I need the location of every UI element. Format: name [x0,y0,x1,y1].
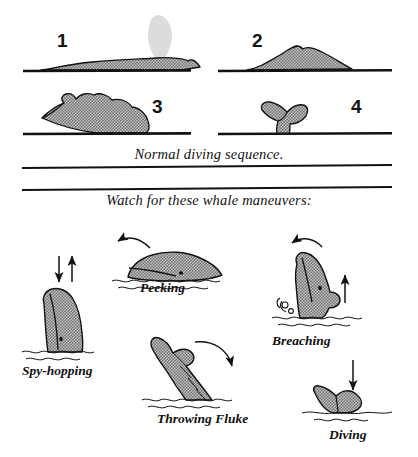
waterline-stage3 [23,133,191,134]
waterline-stage4 [218,133,392,134]
stage-number-2: 2 [252,31,263,50]
whale-head-spy-hopping [43,288,82,352]
breaching-figure [272,239,362,326]
label-peeking: Peeking [140,280,185,296]
stage-3-figure [23,94,191,134]
stage-number-3: 3 [152,97,163,116]
stage-1-figure [23,15,200,71]
whale-eye-breaching [318,286,322,290]
whale-eye-peeking [179,271,183,275]
stage-4-figure [218,102,392,134]
whale-head-peeking [128,252,222,281]
splash-breaching [277,298,293,313]
whale-fluke-stage4 [261,102,307,134]
stage-2-figure [218,46,392,71]
label-throwing-fluke: Throwing Fluke [157,411,248,427]
waterline-stage1 [23,70,191,71]
whale-illustration-page: 1 2 3 4 Normal diving sequence. Watch fo… [0,0,418,457]
stage-number-4: 4 [351,97,362,116]
whale-body-stage3 [42,94,149,133]
whale-fluke-throwing [151,338,212,400]
label-breaching: Breaching [272,333,331,349]
label-spy-hopping: Spy-hopping [22,363,93,379]
breaching-arrow-curved [292,239,322,247]
sequence-caption: Normal diving sequence. [0,146,418,163]
water-breaching [272,317,362,326]
water-diving [302,412,392,421]
peeking-arrow [118,238,150,248]
maneuvers-caption: Watch for these whale maneuvers: [0,192,418,209]
whale-eye-spy-hopping [59,337,62,341]
divider-upper [22,165,392,168]
spy-hopping-figure [22,256,94,360]
water-throwing-fluke [142,399,232,408]
whale-back-stage1 [41,58,200,70]
label-diving: Diving [329,427,367,443]
throwing-fluke-figure [142,338,232,408]
throwing-fluke-arrow [195,342,232,366]
stage-number-1: 1 [57,31,68,50]
whale-figure-svg [0,0,418,457]
divider-lower [22,187,392,190]
whale-body-breaching [296,253,340,318]
waterline-stage2 [218,70,392,71]
diving-figure [302,360,392,421]
water-spy-hopping [22,351,94,360]
whale-back-stage2 [247,46,352,70]
